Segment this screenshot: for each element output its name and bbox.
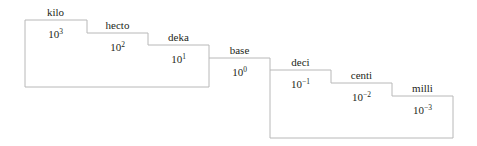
power-deci: 10−1: [270, 78, 331, 90]
prefix-label-milli: milli: [392, 82, 453, 94]
prefix-label-deka: deka: [148, 31, 209, 43]
power-milli: 10−3: [392, 104, 453, 116]
power-centi: 10−2: [331, 91, 392, 103]
power-base: 100: [209, 66, 270, 78]
prefix-label-centi: centi: [331, 69, 392, 81]
prefix-label-kilo: kilo: [25, 6, 86, 18]
power-hecto: 102: [87, 41, 148, 53]
prefix-label-hecto: hecto: [87, 19, 148, 31]
prefix-label-base: base: [209, 44, 270, 56]
power-deka: 101: [148, 53, 209, 65]
power-kilo: 103: [25, 28, 86, 40]
prefix-label-deci: deci: [270, 56, 331, 68]
